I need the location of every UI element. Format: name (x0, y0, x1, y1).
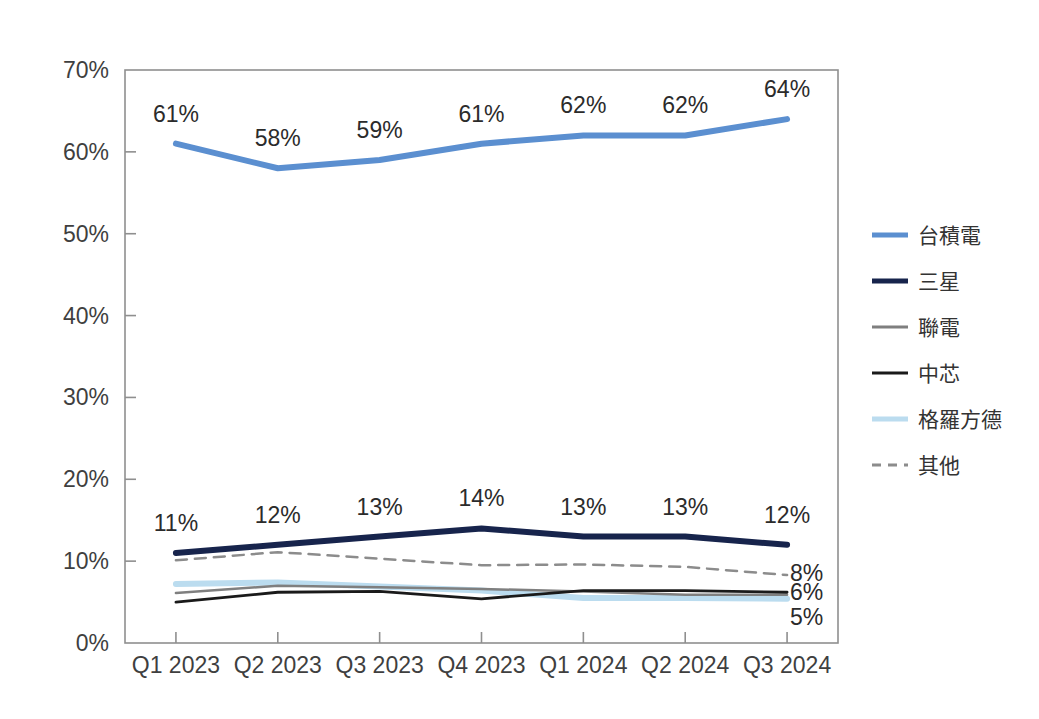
legend-label: 台積電 (918, 224, 981, 247)
x-tick-label: Q2 2023 (234, 652, 322, 678)
legend-label: 中芯 (918, 362, 960, 385)
data-label: 62% (662, 92, 708, 118)
data-label: 61% (458, 101, 504, 127)
legend-label: 其他 (918, 454, 960, 477)
y-tick-label: 70% (63, 57, 109, 83)
data-label: 13% (560, 494, 606, 520)
series-end-label: 5% (790, 604, 823, 630)
x-tick-label: Q3 2023 (336, 652, 424, 678)
x-tick-label: Q2 2024 (641, 652, 729, 678)
x-tick-label: Q1 2023 (132, 652, 220, 678)
data-label: 13% (662, 494, 708, 520)
y-tick-label: 50% (63, 221, 109, 247)
data-label: 13% (357, 494, 403, 520)
data-label: 11% (154, 510, 198, 536)
x-tick-label: Q3 2024 (743, 652, 831, 678)
data-label: 59% (357, 117, 403, 143)
data-label: 14% (458, 485, 504, 511)
x-tick-label: Q1 2024 (539, 652, 627, 678)
legend-label: 三星 (918, 270, 960, 293)
y-tick-label: 40% (63, 303, 109, 329)
legend-label: 聯電 (918, 316, 960, 339)
y-tick-label: 30% (63, 384, 109, 410)
data-label: 64% (764, 76, 810, 102)
series-end-label: 6% (790, 579, 823, 605)
data-label: 61% (153, 101, 199, 127)
y-tick-label: 20% (63, 466, 109, 492)
data-label: 62% (560, 92, 606, 118)
data-label: 12% (255, 502, 301, 528)
data-label: 58% (255, 125, 301, 151)
y-tick-label: 10% (63, 548, 109, 574)
line-chart: 0%10%20%30%40%50%60%70% Q1 2023Q2 2023Q3… (0, 0, 1039, 719)
x-axis-labels: Q1 2023Q2 2023Q3 2023Q4 2023Q1 2024Q2 20… (132, 652, 832, 678)
legend-label: 格羅方德 (918, 408, 1002, 431)
y-tick-label: 0% (76, 630, 109, 656)
x-tick-label: Q4 2023 (437, 652, 525, 678)
chart-container: 0%10%20%30%40%50%60%70% Q1 2023Q2 2023Q3… (0, 0, 1039, 719)
series-end-labels: 8%6%5% (790, 560, 823, 630)
y-tick-label: 60% (63, 139, 109, 165)
data-label: 12% (764, 502, 810, 528)
